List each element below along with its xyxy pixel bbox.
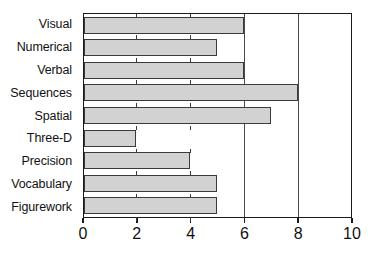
bar-row xyxy=(84,82,351,105)
bar xyxy=(84,62,244,79)
category-label: Verbal xyxy=(0,59,78,82)
category-label: Spatial xyxy=(0,104,78,127)
bar xyxy=(84,84,298,101)
x-axis-tick xyxy=(136,218,138,223)
category-label: Precision xyxy=(0,150,78,173)
x-axis-tick xyxy=(244,218,246,223)
x-axis-tick xyxy=(297,218,299,223)
bar-row xyxy=(84,172,351,195)
x-axis-tick-label: 10 xyxy=(343,224,361,244)
category-label: Visual xyxy=(0,13,78,36)
category-label: Vocabulary xyxy=(0,172,78,195)
bars-layer xyxy=(84,14,351,217)
x-axis-tick xyxy=(351,218,353,223)
bar-row xyxy=(84,59,351,82)
x-axis-tick xyxy=(190,218,192,223)
bar-row xyxy=(84,195,351,218)
bar-row xyxy=(84,104,351,127)
category-label: Figurework xyxy=(0,195,78,218)
bar-row xyxy=(84,14,351,37)
category-axis: VisualNumericalVerbalSequencesSpatialThr… xyxy=(0,13,78,218)
x-axis-tick-labels: 0246810 xyxy=(83,224,352,248)
bar-chart: VisualNumericalVerbalSequencesSpatialThr… xyxy=(0,0,382,263)
x-axis-tick-label: 8 xyxy=(294,224,303,244)
bar xyxy=(84,175,217,192)
plot-area xyxy=(83,13,352,218)
bar xyxy=(84,152,190,169)
bar xyxy=(84,107,271,124)
x-axis-tick-label: 6 xyxy=(240,224,249,244)
x-axis-tick-label: 4 xyxy=(186,224,195,244)
category-label: Sequences xyxy=(0,81,78,104)
bar xyxy=(84,130,136,147)
category-label: Three-D xyxy=(0,127,78,150)
category-label: Numerical xyxy=(0,36,78,59)
bar xyxy=(84,197,217,214)
bar-row xyxy=(84,37,351,60)
bar-row xyxy=(84,149,351,172)
x-axis-tick-label: 0 xyxy=(79,224,88,244)
bar xyxy=(84,39,217,56)
bar-row xyxy=(84,127,351,150)
x-axis-tick-label: 2 xyxy=(132,224,141,244)
x-axis-tick xyxy=(82,218,84,223)
bar xyxy=(84,17,244,34)
